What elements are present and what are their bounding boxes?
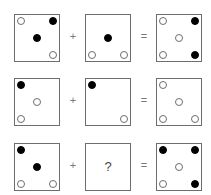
- panel-row2-b: [85, 78, 131, 126]
- panel-row2-result: [156, 78, 202, 126]
- empty-circle-icon: [120, 115, 128, 123]
- empty-circle-icon: [159, 81, 167, 89]
- empty-circle-icon: [120, 51, 128, 59]
- plus-operator: +: [67, 159, 79, 171]
- panel-row3-b: ?: [85, 143, 131, 191]
- filled-circle-icon: [49, 17, 57, 25]
- plus-operator: +: [67, 94, 79, 106]
- empty-circle-icon: [175, 34, 183, 42]
- empty-circle-icon: [49, 51, 57, 59]
- filled-circle-icon: [33, 163, 41, 171]
- empty-circle-icon: [88, 51, 96, 59]
- filled-circle-icon: [191, 51, 199, 59]
- empty-circle-icon: [159, 180, 167, 188]
- empty-circle-icon: [17, 180, 25, 188]
- filled-circle-icon: [191, 146, 199, 154]
- plus-operator: +: [67, 30, 79, 42]
- filled-circle-icon: [33, 34, 41, 42]
- equals-operator: =: [138, 94, 150, 106]
- filled-circle-icon: [88, 81, 96, 89]
- filled-circle-icon: [17, 146, 25, 154]
- panel-row2-a: [14, 78, 60, 126]
- empty-circle-icon: [191, 115, 199, 123]
- filled-circle-icon: [191, 17, 199, 25]
- question-mark: ?: [86, 159, 130, 174]
- filled-circle-icon: [104, 34, 112, 42]
- empty-circle-icon: [159, 17, 167, 25]
- panel-row1-a: [14, 14, 60, 62]
- equals-operator: =: [138, 159, 150, 171]
- filled-circle-icon: [17, 81, 25, 89]
- empty-circle-icon: [175, 163, 183, 171]
- panel-row1-b: [85, 14, 131, 62]
- equals-operator: =: [138, 30, 150, 42]
- empty-circle-icon: [159, 51, 167, 59]
- empty-circle-icon: [159, 115, 167, 123]
- filled-circle-icon: [159, 146, 167, 154]
- empty-circle-icon: [175, 98, 183, 106]
- empty-circle-icon: [33, 98, 41, 106]
- empty-circle-icon: [17, 115, 25, 123]
- filled-circle-icon: [191, 180, 199, 188]
- empty-circle-icon: [17, 17, 25, 25]
- panel-row3-a: [14, 143, 60, 191]
- empty-circle-icon: [49, 180, 57, 188]
- panel-row3-result: [156, 143, 202, 191]
- panel-row1-result: [156, 14, 202, 62]
